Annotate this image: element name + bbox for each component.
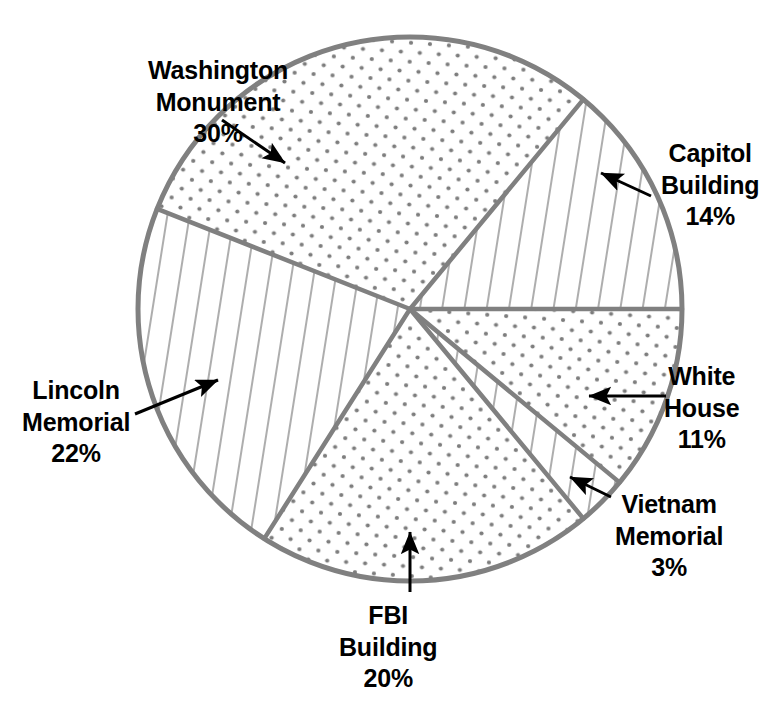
slice-label-line1: Lincoln [22,375,130,407]
slice-label-line1: Vietnam [615,489,723,521]
slice-label-capitol-building: Capitol Building 14% [661,138,759,233]
pie-chart: Capitol Building 14% Washington Monument… [0,0,784,713]
slice-label-line2: House [664,393,739,425]
slice-label-line1: Washington [148,55,288,87]
slice-label-value: 20% [339,663,437,695]
slice-label-value: 22% [22,438,130,470]
slice-label-line2: Memorial [22,407,130,439]
slice-label-white-house: White House 11% [664,361,739,456]
slice-label-value: 11% [664,424,739,456]
slice-label-line2: Memorial [615,521,723,553]
slice-label-line2: Building [661,170,759,202]
slice-label-line2: Building [339,632,437,664]
slice-label-vietnam-memorial: Vietnam Memorial 3% [615,489,723,584]
slice-label-line2: Monument [148,87,288,119]
slice-label-fbi-building: FBI Building 20% [339,600,437,695]
slice-label-line1: Capitol [661,138,759,170]
slice-label-lincoln-memorial: Lincoln Memorial 22% [22,375,130,470]
slice-label-line1: White [664,361,739,393]
slice-label-line1: FBI [339,600,437,632]
slice-label-washington-monument: Washington Monument 30% [148,55,288,150]
slice-label-value: 30% [148,118,288,150]
slice-label-value: 3% [615,552,723,584]
slice-label-value: 14% [661,201,759,233]
